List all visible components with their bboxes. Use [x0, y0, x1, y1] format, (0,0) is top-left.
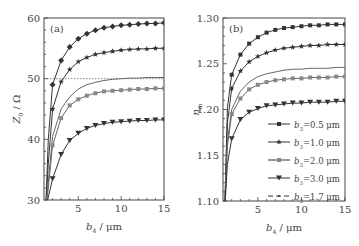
data-marker	[264, 50, 270, 55]
series-line	[46, 48, 164, 209]
legend-label: b3=0.5 μm	[294, 120, 340, 132]
data-marker	[84, 31, 90, 37]
data-marker	[265, 31, 269, 35]
series-line	[46, 120, 164, 209]
y-axis-label: Z0 / Ω	[11, 95, 24, 125]
data-marker	[51, 143, 55, 147]
data-marker	[85, 94, 89, 98]
y-tick-label: 60	[27, 13, 40, 24]
data-marker	[58, 57, 64, 63]
series-group	[46, 20, 167, 209]
y-tick-label: 1.25	[197, 58, 219, 69]
data-marker	[273, 28, 277, 32]
data-marker	[144, 20, 150, 26]
data-marker	[308, 75, 312, 79]
data-marker	[237, 117, 243, 122]
data-marker	[119, 88, 123, 92]
data-marker	[162, 86, 166, 90]
data-marker	[247, 42, 251, 46]
data-marker	[307, 42, 313, 47]
data-marker	[50, 82, 56, 88]
legend: b3=0.5 μmb3=1.0 μmb3=2.0 μmb3=3.0 μmb3=1…	[268, 120, 340, 204]
data-marker	[238, 97, 242, 101]
data-marker	[127, 22, 133, 28]
y-tick-label: 1.30	[197, 13, 219, 24]
x-tick-label: 15	[339, 204, 352, 215]
data-marker	[102, 89, 106, 93]
data-marker	[265, 80, 269, 84]
y-tick-label: 40	[27, 134, 40, 145]
data-marker	[326, 75, 330, 79]
data-marker	[282, 77, 286, 81]
data-marker	[273, 78, 277, 82]
data-marker	[161, 20, 167, 26]
series-line	[46, 78, 164, 210]
panel-label: (a)	[50, 23, 64, 34]
data-marker	[127, 47, 133, 52]
data-marker	[144, 46, 150, 51]
data-marker	[110, 48, 116, 53]
panel-b: 510151.101.151.201.251.30(b)b4 / μmnmb3=…	[190, 13, 351, 236]
legend-item: b3=3.0 μm	[268, 174, 340, 186]
x-tick-label: 5	[75, 203, 81, 214]
data-marker	[58, 152, 64, 157]
data-marker	[230, 73, 234, 77]
data-marker	[110, 23, 116, 29]
legend-item: b3=1.0 μm	[268, 138, 340, 150]
x-axis-label: b4 / μm	[86, 221, 122, 234]
data-marker	[343, 75, 347, 79]
x-axis-label: b4 / μm	[266, 222, 302, 235]
data-marker	[67, 138, 73, 143]
legend-item: b3=0.5 μm	[268, 120, 340, 132]
data-marker	[152, 20, 158, 26]
data-marker	[308, 23, 312, 27]
data-marker	[316, 42, 322, 47]
data-marker	[255, 106, 261, 111]
y-tick-label: 50	[27, 73, 40, 84]
data-marker	[76, 97, 80, 101]
data-marker	[93, 91, 97, 95]
data-marker	[118, 47, 124, 52]
legend-marker	[278, 195, 280, 197]
data-marker	[153, 45, 159, 50]
data-marker	[145, 87, 149, 91]
data-marker	[272, 47, 278, 52]
data-marker	[343, 22, 347, 26]
panel-label: (b)	[229, 23, 243, 34]
data-marker	[230, 112, 234, 116]
data-marker	[256, 35, 260, 39]
legend-marker	[277, 122, 281, 126]
data-marker	[291, 76, 295, 80]
legend-marker	[276, 139, 282, 144]
data-marker	[101, 50, 107, 55]
data-marker	[334, 22, 338, 26]
data-marker	[135, 21, 141, 27]
data-marker	[256, 83, 260, 87]
data-marker	[111, 89, 115, 93]
data-marker	[282, 26, 286, 30]
legend-label: b3=3.0 μm	[294, 174, 340, 186]
data-marker	[84, 54, 90, 59]
legend-item: b3=2.0 μm	[268, 156, 340, 168]
legend-label: b3=1.0 μm	[294, 138, 340, 150]
data-marker	[50, 176, 56, 181]
data-marker	[93, 51, 99, 56]
legend-label: b3=1.7 μm	[294, 192, 340, 204]
data-marker	[326, 22, 330, 26]
data-marker	[299, 43, 305, 48]
y-tick-label: 1.15	[197, 150, 219, 161]
data-marker	[317, 23, 321, 27]
data-marker	[68, 103, 72, 107]
data-marker	[333, 42, 339, 47]
data-marker	[153, 86, 157, 90]
data-marker	[334, 75, 338, 79]
data-marker	[136, 87, 140, 91]
data-marker	[229, 136, 235, 141]
legend-marker	[277, 158, 281, 162]
x-tick-label: 10	[295, 204, 308, 215]
data-marker	[317, 75, 321, 79]
y-tick-label: 30	[27, 195, 40, 206]
data-marker	[290, 44, 296, 49]
data-marker	[299, 24, 303, 28]
panel-a: 5101530405060(a)b4 / μmZ0 / Ω	[11, 13, 170, 235]
